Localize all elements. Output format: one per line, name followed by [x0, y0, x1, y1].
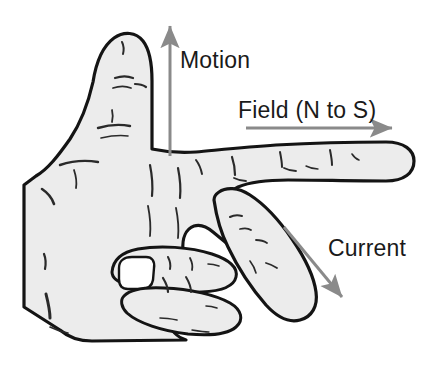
hand-drawing [24, 33, 414, 341]
motion-label: Motion [180, 47, 250, 73]
hand-outline-path [24, 33, 414, 341]
ring-fingernail [119, 257, 154, 289]
field-label: Field (N to S) [238, 97, 376, 123]
figure-canvas: Motion Field (N to S) Current [0, 0, 435, 369]
hand-diagram: Motion Field (N to S) Current [0, 0, 435, 369]
current-label: Current [328, 235, 407, 261]
